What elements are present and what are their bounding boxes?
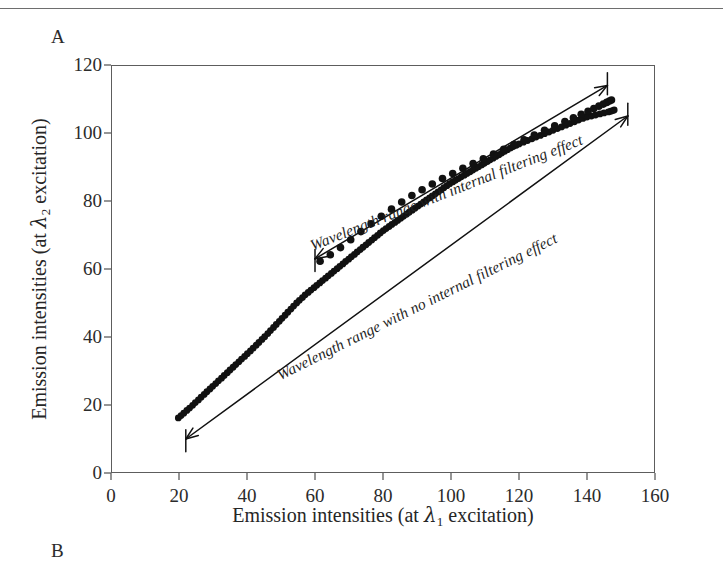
y-axis-lambda-subscript: 2 <box>37 209 52 216</box>
y-axis-title-suffix: excitation) <box>28 118 50 209</box>
y-tick-label: 120 <box>60 54 102 76</box>
y-axis-title: Emission intensities (at λ2 excitation) <box>27 118 54 420</box>
x-tick-label: 140 <box>573 485 602 507</box>
x-tick-label: 160 <box>641 485 670 507</box>
x-axis-lambda-symbol: λ <box>424 503 437 527</box>
y-tick-label: 60 <box>60 258 102 280</box>
x-axis-title: Emission intensities (at λ1 excitation) <box>232 503 534 530</box>
x-axis-title-prefix: Emission intensities (at <box>232 504 424 526</box>
y-tick-label: 0 <box>60 462 102 484</box>
y-tick-label: 80 <box>60 190 102 212</box>
y-tick-label: 40 <box>60 326 102 348</box>
x-tick-label: 0 <box>106 485 116 507</box>
y-tick-label: 20 <box>60 394 102 416</box>
figure-page: A 020406080100120140160 020406080100120 … <box>0 0 723 575</box>
panel-a-figure: 020406080100120140160 020406080100120 Em… <box>0 0 723 530</box>
panel-b-label: B <box>51 540 64 562</box>
plot-frame <box>111 65 655 473</box>
y-axis-title-prefix: Emission intensities (at <box>28 228 50 420</box>
y-axis-lambda-symbol: λ <box>27 215 51 228</box>
x-axis-title-suffix: excitation) <box>443 504 534 526</box>
y-tick-label: 100 <box>60 122 102 144</box>
x-tick-label: 20 <box>170 485 189 507</box>
